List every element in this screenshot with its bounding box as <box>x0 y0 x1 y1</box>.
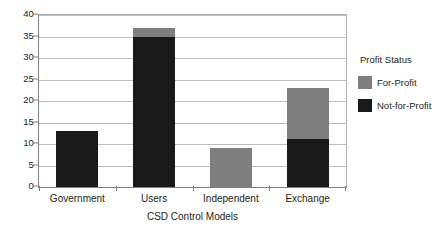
x-axis-tickmark <box>39 186 40 191</box>
bar-group[interactable] <box>287 15 329 187</box>
x-axis-tick-label: Users <box>141 192 167 206</box>
bar-segment-not-for-profit[interactable] <box>287 139 329 187</box>
legend-title: Profit Status <box>360 54 443 66</box>
legend-label-not-for-profit: Not-for-Profit <box>377 100 431 112</box>
x-axis-tickmark <box>193 186 194 191</box>
x-axis-title: CSD Control Models <box>39 210 346 224</box>
bar-stack[interactable] <box>287 88 329 187</box>
legend-swatch-for-profit-icon <box>358 76 372 89</box>
x-axis-tick-label: Independent <box>203 192 259 206</box>
legend-item-for-profit[interactable]: For-Profit <box>358 76 443 89</box>
x-axis-tick-label: Government <box>50 192 105 206</box>
legend-swatch-not-for-profit-icon <box>358 99 372 112</box>
x-axis-tickmark <box>345 186 346 191</box>
x-axis-tickmark <box>116 186 117 191</box>
x-axis-tickmark <box>269 186 270 191</box>
bar-segment-for-profit[interactable] <box>210 148 252 187</box>
bar-segment-for-profit[interactable] <box>287 88 329 139</box>
bar-stack[interactable] <box>133 28 175 187</box>
bar-segment-not-for-profit[interactable] <box>56 131 98 187</box>
legend-label-for-profit: For-Profit <box>377 77 417 89</box>
x-axis-tick-labels: GovernmentUsersIndependentExchange <box>39 192 346 208</box>
bar-stack[interactable] <box>56 131 98 187</box>
legend: Profit Status For-Profit Not-for-Profit <box>358 54 443 112</box>
bar-group[interactable] <box>133 15 175 187</box>
x-axis-tickmarks <box>39 186 346 191</box>
legend-item-not-for-profit[interactable]: Not-for-Profit <box>358 99 443 112</box>
bar-stack[interactable] <box>210 148 252 187</box>
bar-group[interactable] <box>56 15 98 187</box>
bar-segment-for-profit[interactable] <box>133 28 175 37</box>
x-axis-tick-label: Exchange <box>285 192 329 206</box>
y-axis: 0510152025303540 <box>0 14 34 186</box>
bar-group[interactable] <box>210 15 252 187</box>
bar-segment-not-for-profit[interactable] <box>133 37 175 188</box>
stacked-bar-chart: 0510152025303540 GovernmentUsersIndepend… <box>0 0 443 244</box>
bar-series-container <box>39 15 346 187</box>
